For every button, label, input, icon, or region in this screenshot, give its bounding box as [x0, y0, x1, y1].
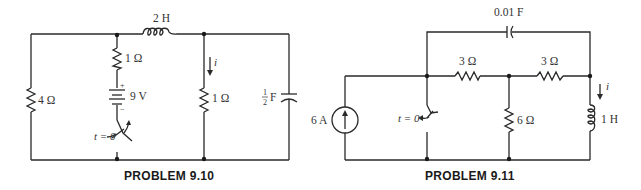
label-1h: 1 H	[601, 113, 618, 125]
label-switch-t0: t = 0	[94, 130, 116, 142]
current-source-6a	[332, 107, 358, 133]
label-switch-t0-2: t = 0	[398, 112, 420, 124]
resistor-1-ohm-series	[113, 48, 121, 70]
label-current-i-2: i	[606, 80, 609, 92]
node-bottom-1	[115, 157, 119, 161]
inductor-2h	[143, 28, 177, 35]
inductor-1h	[588, 105, 595, 131]
caption-9-11: PROBLEM 9.11	[425, 169, 515, 183]
caption-9-10: PROBLEM 9.10	[124, 169, 214, 183]
label-3-ohm-b: 3 Ω	[541, 55, 558, 67]
label-6-ohm: 6 Ω	[517, 114, 534, 126]
circuit-diagrams: 4 Ω 1 Ω + − 9 V t = 0 2 H 1 Ω	[0, 0, 641, 190]
node-top-1	[115, 33, 119, 37]
resistor-6-ohm	[505, 108, 513, 132]
label-3-ohm-a: 3 Ω	[459, 55, 476, 67]
circuit-9-11: 0.01 F 3 Ω 3 Ω 6 A t = 0 6 Ω	[311, 6, 618, 183]
circuit-9-10: 4 Ω 1 Ω + − 9 V t = 0 2 H 1 Ω	[27, 12, 297, 183]
current-arrow-down	[207, 57, 213, 76]
node-top-2	[202, 32, 206, 36]
switch-t0-right	[418, 105, 438, 121]
label-0-01f: 0.01 F	[494, 6, 523, 18]
node-bottom-3	[425, 157, 429, 161]
node-bottom-2	[202, 157, 206, 161]
node-bottom-4	[507, 157, 511, 161]
resistor-3-ohm-b	[537, 72, 563, 80]
label-1-ohm-middle: 1 Ω	[212, 92, 229, 104]
label-1-ohm-series: 1 Ω	[125, 52, 142, 64]
battery-9v	[109, 90, 125, 104]
node-mid-3	[588, 74, 592, 78]
cap-wire	[427, 32, 590, 76]
resistor-4-ohm	[27, 88, 35, 112]
label-4-ohm: 4 Ω	[38, 94, 55, 106]
cap-frac-num: 1	[263, 88, 267, 97]
resistor-1-ohm-middle	[200, 88, 208, 112]
cap-frac-den: 2	[263, 98, 267, 107]
battery-plus: +	[120, 81, 125, 90]
battery-minus: −	[120, 105, 125, 114]
label-6a: 6 A	[311, 114, 328, 126]
current-arrow-down-2	[597, 84, 603, 100]
label-2h: 2 H	[153, 12, 170, 24]
cap-unit-f: F	[270, 91, 276, 103]
node-mid-1	[425, 74, 429, 78]
resistor-3-ohm-a	[455, 72, 480, 80]
label-9v: 9 V	[130, 90, 147, 102]
label-current-i: i	[214, 56, 217, 68]
node-mid-2	[507, 74, 511, 78]
